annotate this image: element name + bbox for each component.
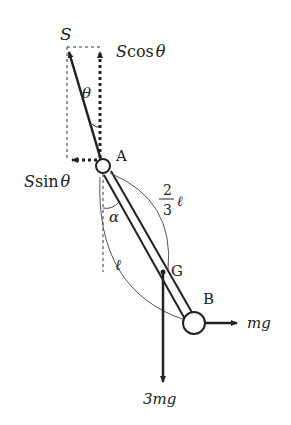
ball-b bbox=[183, 312, 205, 334]
label-g: G bbox=[171, 262, 183, 280]
svg-text:ℓ: ℓ bbox=[177, 193, 183, 209]
pendulum-diagram: S Scosθ θ Ssinθ A α 2 3 ℓ ℓ G B mg 3mg bbox=[0, 0, 291, 425]
length-arc bbox=[100, 177, 185, 320]
label-s: S bbox=[60, 24, 72, 44]
label-3mg: 3mg bbox=[143, 390, 176, 408]
tension-arrow bbox=[69, 52, 101, 160]
svg-text:3: 3 bbox=[163, 202, 172, 218]
label-l: ℓ bbox=[115, 256, 121, 274]
label-scos: Scosθ bbox=[116, 42, 166, 61]
label-theta: θ bbox=[82, 84, 91, 102]
label-a: A bbox=[115, 147, 127, 165]
label-mg: mg bbox=[247, 314, 271, 332]
label-two-thirds-l: 2 3 ℓ bbox=[159, 182, 183, 218]
label-ssin: Ssinθ bbox=[24, 172, 71, 191]
label-alpha: α bbox=[109, 208, 119, 226]
label-b: B bbox=[203, 290, 214, 308]
svg-text:2: 2 bbox=[163, 182, 172, 198]
pivot-a bbox=[96, 159, 110, 173]
